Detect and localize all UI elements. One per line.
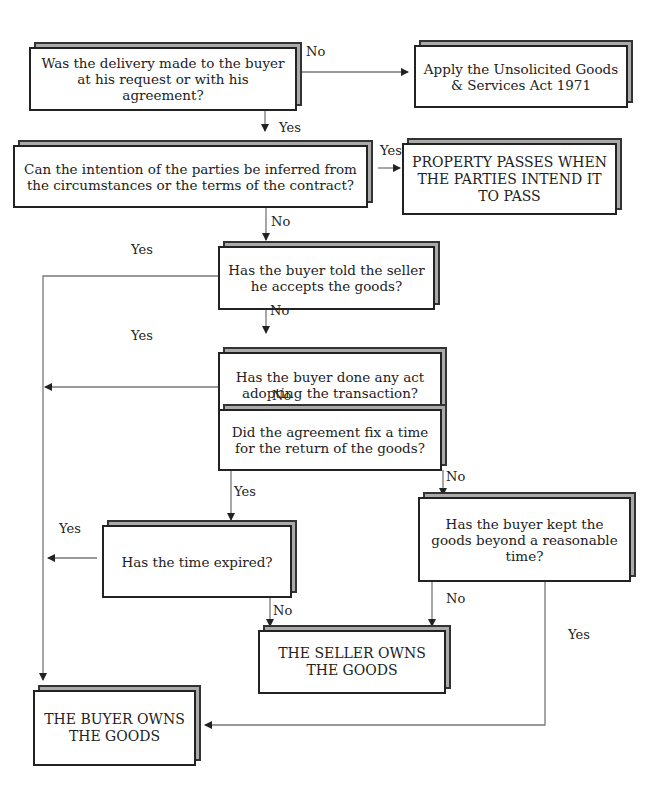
question-time-expired: Has the time expired?: [102, 525, 292, 598]
label-q5-yes: Yes: [234, 484, 256, 499]
question-kept-beyond-reasonable-time: Has the buyer kept the goods beyond a re…: [418, 497, 631, 582]
outcome-property-passes-intent: PROPERTY PASSES WHEN THE PARTIES INTEND …: [402, 143, 617, 215]
label-q4-no: No: [272, 388, 291, 403]
label-q1-yes: Yes: [279, 120, 301, 135]
label-q7-no: No: [446, 591, 465, 606]
label-q4-yes: Yes: [131, 328, 153, 343]
label-q2-no: No: [271, 214, 290, 229]
question-delivery-requested: Was the delivery made to the buyer at hi…: [29, 47, 297, 111]
label-q6-yes: Yes: [59, 521, 81, 536]
label-q1-no: No: [306, 44, 325, 59]
label-q5-no: No: [446, 469, 465, 484]
label-q2-yes: Yes: [380, 143, 402, 158]
label-q3-yes: Yes: [131, 242, 153, 257]
outcome-seller-owns-goods: THE SELLER OWNS THE GOODS: [258, 630, 446, 694]
question-time-fixed-for-return: Did the agreement fix a time for the ret…: [218, 409, 442, 471]
outcome-unsolicited-goods-act: Apply the Unsolicited Goods & Services A…: [414, 45, 628, 108]
question-intention-inferred: Can the intention of the parties be infe…: [13, 145, 368, 208]
label-q6-no: No: [273, 603, 292, 618]
question-buyer-told-seller: Has the buyer told the seller he accepts…: [218, 246, 435, 310]
flowchart: Was the delivery made to the buyer at hi…: [0, 0, 667, 797]
label-q7-yes: Yes: [568, 627, 590, 642]
label-q3-no: No: [270, 303, 289, 318]
outcome-buyer-owns-goods: THE BUYER OWNS THE GOODS: [33, 690, 196, 766]
